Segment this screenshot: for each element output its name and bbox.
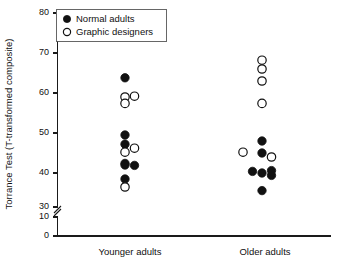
ytick-label-40: 40 (39, 167, 49, 177)
data-point (258, 186, 266, 194)
legend-marker-normal-adults (63, 15, 70, 22)
data-point (121, 161, 129, 169)
data-points-layer (121, 56, 276, 195)
ytick-label-10: 10 (39, 211, 49, 221)
legend-marker-graphic-designers (63, 28, 70, 35)
data-point (121, 183, 129, 191)
data-point (248, 167, 256, 175)
y-axis-group (54, 12, 61, 236)
x-category-label-older: Older adults (239, 246, 290, 257)
ytick-label-30: 30 (39, 201, 49, 211)
data-point (121, 148, 129, 156)
y-axis-title: Torrance Test (T-transformed composite) (3, 39, 14, 210)
data-point (258, 137, 266, 145)
legend-label-graphic-designers: Graphic designers (76, 26, 153, 37)
data-point (267, 171, 275, 179)
data-point (130, 92, 138, 100)
data-point (258, 56, 266, 64)
y-tick-labels: 80 70 60 50 40 30 10 0 (39, 7, 49, 240)
ytick-label-0: 0 (44, 230, 49, 240)
legend-label-normal-adults: Normal adults (76, 13, 135, 24)
data-point (130, 144, 138, 152)
ytick-label-60: 60 (39, 87, 49, 97)
ytick-label-80: 80 (39, 7, 49, 17)
legend: Normal adults Graphic designers (56, 9, 166, 41)
ytick-label-50: 50 (39, 127, 49, 137)
data-point (130, 161, 138, 169)
chart-root: 80 70 60 50 40 30 10 0 Torrance Test (T-… (0, 0, 343, 272)
data-point (239, 148, 247, 156)
data-point (258, 77, 266, 85)
data-point (121, 140, 129, 148)
data-point (258, 99, 266, 107)
data-point (258, 149, 266, 157)
data-point (121, 99, 129, 107)
data-point (258, 169, 266, 177)
data-point (258, 65, 266, 73)
scatter-plot: 80 70 60 50 40 30 10 0 Torrance Test (T-… (0, 0, 343, 272)
data-point (121, 175, 129, 183)
y-tick-marks (53, 13, 58, 236)
ytick-label-70: 70 (39, 47, 49, 57)
x-category-label-younger: Younger adults (98, 246, 161, 257)
data-point (267, 153, 275, 161)
data-point (121, 131, 129, 139)
data-point (121, 74, 129, 82)
